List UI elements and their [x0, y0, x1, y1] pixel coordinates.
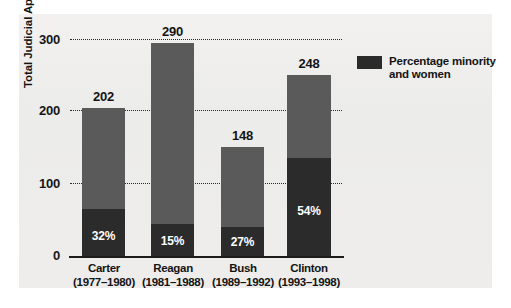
bar-percent-label-bush: 27%: [231, 235, 254, 249]
x-tick-years-bush: (1989–1992): [211, 275, 275, 289]
ytick-label-100: 100: [30, 176, 60, 191]
bar-group-clinton[interactable]: 248 54%: [287, 75, 331, 256]
bar-group-bush[interactable]: 148 27%: [221, 147, 264, 256]
x-tick-label-bush: Bush (1989–1992): [211, 261, 275, 289]
plot-area: 300 200 100 0 Total Judicial Appointees …: [0, 0, 511, 308]
ytick-label-0: 0: [30, 248, 60, 263]
x-tick-years-clinton: (1993–1998): [277, 275, 341, 289]
x-tick-years-carter: (1977–1980): [72, 275, 136, 289]
y-axis-title: Total Judicial Appointees: [22, 0, 34, 88]
ytick-label-300: 300: [30, 32, 60, 47]
x-tick-name-clinton: Clinton: [290, 262, 328, 274]
bar-percent-label-carter: 32%: [92, 229, 115, 243]
legend-label-line2: and women: [389, 68, 496, 81]
bar-percent-label-clinton: 54%: [297, 204, 320, 218]
x-tick-name-reagan: Reagan: [153, 262, 193, 274]
x-tick-label-clinton: Clinton (1993–1998): [277, 261, 341, 289]
x-tick-name-bush: Bush: [229, 262, 257, 274]
x-axis-line: [69, 256, 344, 258]
chart-figure: 300 200 100 0 Total Judicial Appointees …: [0, 0, 511, 308]
bar-value-label-reagan: 290: [162, 24, 183, 39]
ytick-label-200: 200: [30, 103, 60, 118]
legend-label-minority: Percentage minority and women: [389, 55, 496, 81]
legend-swatch-minority: [357, 56, 382, 69]
gridline-300: [70, 39, 342, 40]
bar-value-label-bush: 148: [232, 128, 253, 143]
bar-value-label-clinton: 248: [298, 56, 319, 71]
x-tick-label-carter: Carter (1977–1980): [72, 261, 136, 289]
chart-legend: Percentage minority and women: [357, 55, 496, 81]
bar-value-label-carter: 202: [93, 89, 114, 104]
x-tick-years-reagan: (1981–1988): [141, 275, 205, 289]
bar-percent-label-reagan: 15%: [161, 234, 184, 248]
legend-label-line1: Percentage minority: [389, 55, 496, 68]
x-tick-label-reagan: Reagan (1981–1988): [141, 261, 205, 289]
bar-group-carter[interactable]: 202 32%: [82, 108, 125, 256]
x-tick-name-carter: Carter: [88, 262, 120, 274]
bar-group-reagan[interactable]: 290 15%: [151, 43, 194, 256]
